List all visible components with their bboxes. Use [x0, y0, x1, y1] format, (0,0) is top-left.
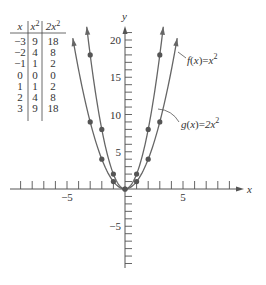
data-point: [88, 52, 93, 57]
table-cell: 2: [50, 80, 56, 92]
y-tick-label: 10: [110, 109, 122, 121]
data-point: [111, 179, 116, 184]
table-cell: 18: [48, 35, 60, 47]
table-cell: 2: [17, 91, 23, 103]
table-cell: 1: [17, 80, 23, 92]
data-point: [157, 52, 162, 57]
parabola-chart: xx22x2 −3918−248−1120001122483918 x y −5…: [0, 0, 266, 285]
table-cell: 2: [50, 57, 56, 69]
table-cell: −2: [14, 46, 26, 58]
x-tick-label: 5: [180, 191, 186, 203]
curve-arrow-icon: [160, 27, 165, 35]
table-cell: 18: [48, 102, 60, 114]
y-tick-label: 15: [110, 71, 122, 83]
f-function-label: f(x)=x2: [187, 52, 217, 67]
data-point: [122, 186, 127, 191]
table-cell: 4: [32, 46, 38, 58]
y-axis-label: y: [121, 10, 127, 22]
table-cell: 9: [32, 35, 38, 47]
table-cell: 1: [32, 57, 38, 69]
table-header-cell: x: [17, 20, 23, 32]
data-point: [99, 127, 104, 132]
y-tick-label: 5: [116, 146, 122, 158]
f-label-leader: [178, 52, 186, 58]
curve-arrow-icon: [85, 27, 90, 35]
table-cell: 4: [32, 91, 38, 103]
data-point: [157, 119, 162, 124]
value-table: xx22x2 −3918−248−1120001122483918: [10, 19, 66, 121]
table-cell: −3: [14, 35, 26, 47]
table-cell: 1: [32, 80, 38, 92]
g-function-label: g(x)=2x2: [181, 116, 219, 131]
data-point: [134, 172, 139, 177]
table-cell: 8: [50, 46, 56, 58]
data-point: [111, 172, 116, 177]
data-point: [99, 157, 104, 162]
data-point: [134, 179, 139, 184]
y-tick-label: −5: [109, 220, 121, 232]
table-cell: 9: [32, 102, 38, 114]
table-cell: 3: [17, 102, 23, 114]
data-point: [146, 157, 151, 162]
table-cell: 0: [17, 69, 23, 81]
x-axis-label: x: [246, 183, 252, 195]
table-header-cell: 2x2: [46, 19, 60, 32]
table-cell: −1: [14, 57, 26, 69]
data-point: [146, 127, 151, 132]
table-cell: 8: [50, 91, 56, 103]
table-cell: 0: [32, 69, 38, 81]
y-tick-label: 20: [110, 34, 122, 46]
data-point: [88, 119, 93, 124]
x-axis-arrow-icon: [236, 187, 244, 192]
table-cell: 0: [50, 69, 56, 81]
table-header-cell: x2: [30, 19, 40, 32]
x-tick-label: −5: [61, 191, 73, 203]
y-axis: [123, 26, 133, 268]
